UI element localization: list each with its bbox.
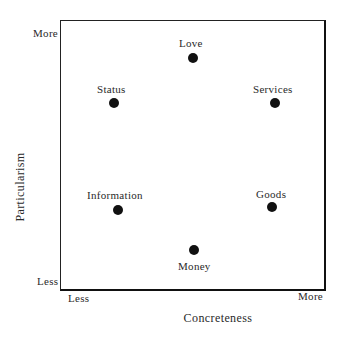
x-axis-title: Concreteness [184, 311, 253, 326]
point-label-services: Services [253, 83, 293, 95]
y-axis-high-label: More [33, 27, 58, 39]
point-label-money: Money [178, 260, 211, 272]
data-point-services [270, 98, 280, 108]
x-axis-high-label: More [298, 290, 323, 302]
y-axis-title: Particularism [13, 152, 28, 221]
data-point-status [109, 98, 119, 108]
y-axis-low-label: Less [37, 275, 58, 287]
point-label-status: Status [97, 83, 126, 95]
data-point-love [188, 53, 198, 63]
data-point-money [189, 245, 199, 255]
point-label-goods: Goods [256, 188, 286, 200]
data-point-goods [267, 202, 277, 212]
point-label-information: Information [87, 189, 143, 201]
data-point-information [113, 205, 123, 215]
point-label-love: Love [179, 37, 203, 49]
x-axis-low-label: Less [68, 292, 89, 304]
